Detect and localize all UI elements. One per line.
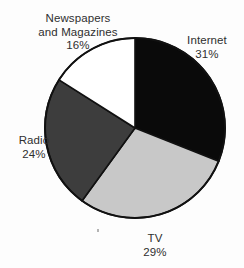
pie-label-internet-value: 31% xyxy=(176,48,238,62)
pie-label-newspapers-line2: and Magazines xyxy=(26,26,130,40)
pie-label-tv-value: 29% xyxy=(133,246,177,260)
pie-label-tv-name: TV xyxy=(133,232,177,246)
pie-label-radio: Radio 24% xyxy=(8,134,60,161)
pie-label-tv: TV 29% xyxy=(133,232,177,259)
scan-artifact-speck xyxy=(97,229,99,232)
pie-label-internet-name: Internet xyxy=(176,34,238,48)
pie-label-newspapers-and-magazines: Newspapers and Magazines 16% xyxy=(26,12,130,53)
pie-label-newspapers-line1: Newspapers xyxy=(26,12,130,26)
pie-chart-figure: Newspapers and Magazines 16% Internet 31… xyxy=(0,0,244,268)
pie-label-radio-name: Radio xyxy=(8,134,60,148)
pie-label-newspapers-value: 16% xyxy=(26,39,130,53)
pie-label-internet: Internet 31% xyxy=(176,34,238,61)
pie-label-radio-value: 24% xyxy=(8,148,60,162)
